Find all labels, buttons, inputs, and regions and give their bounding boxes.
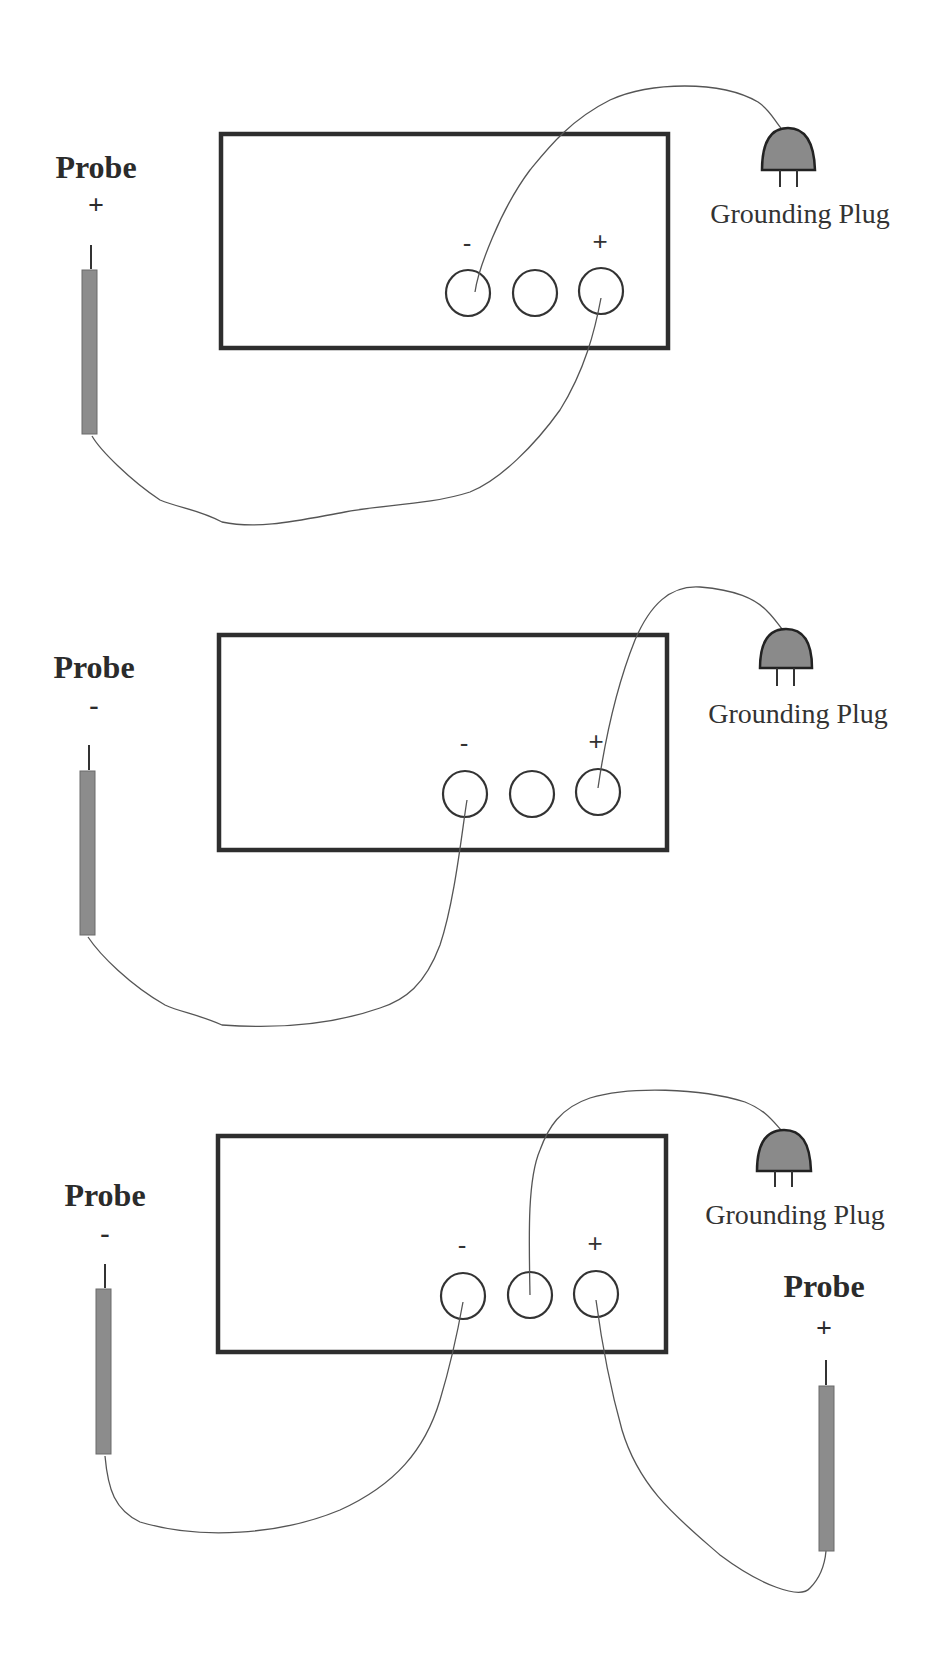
probe-negative-rod (96, 1289, 111, 1454)
terminal-negative (441, 1273, 485, 1319)
terminal-positive (574, 1271, 618, 1317)
wiring-diagrams: Probe + - + Grounding Plug Probe - - + (0, 0, 945, 1672)
probe-label: Probe (53, 649, 134, 685)
ground-wire (529, 1090, 781, 1295)
terminal-negative-label: - (460, 728, 469, 758)
grounding-plug-icon (757, 1130, 811, 1187)
terminal-positive-label: + (588, 726, 603, 756)
probe-positive-rod (819, 1386, 834, 1551)
terminal-negative (446, 270, 490, 316)
terminal-negative-label: - (463, 228, 472, 258)
terminal-positive (576, 769, 620, 815)
probe-polarity: + (88, 189, 104, 220)
terminal-positive-label: + (587, 1228, 602, 1258)
probe-negative-label: Probe (64, 1177, 145, 1213)
probe-negative-polarity: - (100, 1217, 109, 1248)
panel-2: Probe - - + Grounding Plug (53, 587, 887, 1027)
terminal-positive-label: + (592, 226, 607, 256)
panel-1: Probe + - + Grounding Plug (55, 86, 889, 525)
ground-wire (598, 587, 782, 788)
probe-negative-wire (105, 1302, 463, 1533)
probe-wire (92, 298, 601, 525)
grounding-plug-label: Grounding Plug (710, 198, 890, 229)
grounding-plug-icon (762, 128, 815, 187)
grounding-plug-label: Grounding Plug (708, 698, 888, 729)
probe-positive-polarity: + (816, 1312, 832, 1343)
grounding-plug-icon (760, 629, 812, 686)
terminal-negative-label: - (458, 1230, 467, 1260)
panel-3: Probe - - + Grounding Plug Probe + (64, 1090, 884, 1592)
probe-label: Probe (55, 149, 136, 185)
terminal-middle (513, 270, 557, 316)
probe-positive-label: Probe (783, 1268, 864, 1304)
grounding-plug-label: Grounding Plug (705, 1199, 885, 1230)
probe-polarity: - (89, 689, 98, 720)
probe-wire (88, 800, 467, 1026)
terminal-middle (510, 771, 554, 817)
probe-positive-wire (596, 1300, 826, 1592)
ground-wire (475, 86, 781, 292)
probe-rod (80, 771, 95, 935)
probe-rod (82, 270, 97, 434)
terminal-positive (579, 268, 623, 314)
